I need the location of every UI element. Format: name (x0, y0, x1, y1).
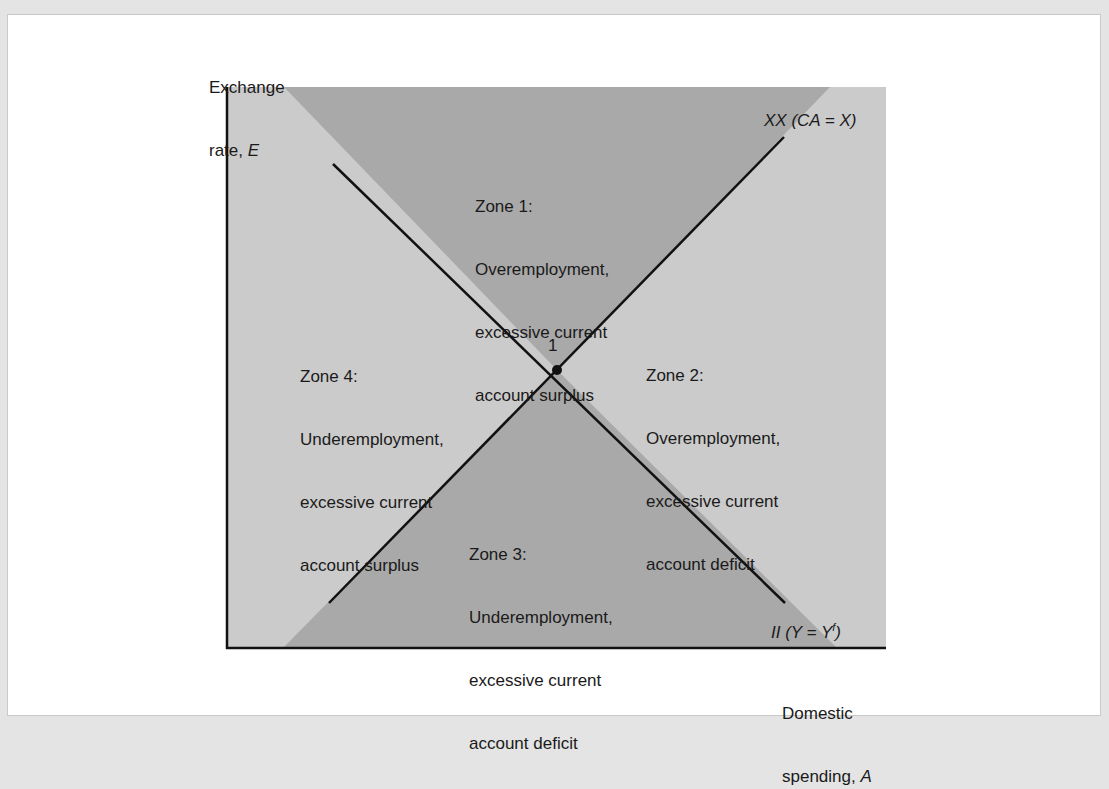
ii-curve-condition-end: ) (835, 623, 841, 642)
ii-curve-label: II (Y = Yf) (771, 617, 841, 643)
zone-4-label: Zone 4: Underemployment, excessive curre… (300, 324, 444, 597)
y-axis-label-line1: Exchange (209, 77, 285, 98)
xx-curve-condition: (CA = X) (791, 111, 856, 130)
x-axis-label: Domestic spending, A (782, 661, 872, 789)
y-axis-label-text: rate, (209, 141, 248, 160)
xx-curve-label: XX (CA = X) (764, 110, 856, 131)
zone-1-label: Zone 1: Overemployment, excessive curren… (475, 154, 609, 427)
y-axis-symbol: E (248, 141, 259, 160)
zone-3-title: Zone 3: (469, 544, 613, 565)
ii-curve-condition: (Y = Y (785, 623, 832, 642)
zone-1-line1: Overemployment, (475, 259, 609, 280)
x-axis-label-line2: spending, A (782, 766, 872, 787)
x-axis-label-line1: Domestic (782, 703, 872, 724)
zone-2-title: Zone 2: (646, 365, 780, 386)
zone-4-title: Zone 4: (300, 366, 444, 387)
zone-3-line1: Underemployment, (469, 607, 613, 628)
zone-3-line2: excessive current (469, 670, 613, 691)
zone-4-line3: account surplus (300, 555, 444, 576)
zone-2-line3: account deficit (646, 554, 780, 575)
zone-2-line2: excessive current (646, 491, 780, 512)
zone-1-line2: excessive current (475, 322, 609, 343)
zone-3-line3: account deficit (469, 733, 613, 754)
ii-curve-name: II (771, 623, 780, 642)
zone-1-line3: account surplus (475, 385, 609, 406)
x-axis-label-text: spending, (782, 767, 860, 786)
y-axis-label: Exchange rate, E (209, 35, 285, 182)
x-axis-symbol: A (860, 767, 871, 786)
zone-1-title: Zone 1: (475, 196, 609, 217)
zone-4-line2: excessive current (300, 492, 444, 513)
zone-4-line1: Underemployment, (300, 429, 444, 450)
zone-3-label: Zone 3: Underemployment, excessive curre… (469, 502, 613, 775)
zone-2-label: Zone 2: Overemployment, excessive curren… (646, 323, 780, 596)
xx-curve-name: XX (764, 111, 787, 130)
zone-2-line1: Overemployment, (646, 428, 780, 449)
y-axis-label-line2: rate, E (209, 140, 285, 161)
